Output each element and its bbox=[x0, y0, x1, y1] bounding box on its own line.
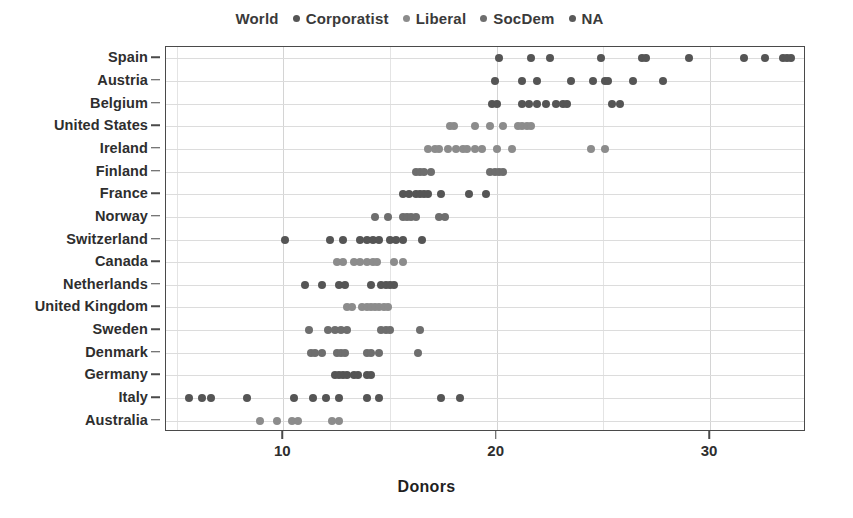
data-point[interactable] bbox=[533, 77, 541, 85]
data-point[interactable] bbox=[629, 77, 637, 85]
data-point[interactable] bbox=[390, 281, 398, 289]
data-point[interactable] bbox=[616, 100, 624, 108]
data-point[interactable] bbox=[375, 349, 383, 357]
data-point[interactable] bbox=[341, 349, 349, 357]
data-point[interactable] bbox=[533, 100, 541, 108]
data-point[interactable] bbox=[294, 417, 302, 425]
data-point[interactable] bbox=[384, 303, 392, 311]
data-point[interactable] bbox=[450, 122, 458, 130]
data-point[interactable] bbox=[414, 349, 422, 357]
data-point[interactable] bbox=[318, 349, 326, 357]
data-point[interactable] bbox=[341, 281, 349, 289]
data-point[interactable] bbox=[437, 190, 445, 198]
data-point[interactable] bbox=[281, 236, 289, 244]
y-axis-tick bbox=[151, 79, 160, 81]
y-axis-tick bbox=[151, 351, 160, 353]
x-axis-label-30: 30 bbox=[701, 442, 718, 459]
data-point[interactable] bbox=[416, 326, 424, 334]
data-point[interactable] bbox=[301, 281, 309, 289]
data-point[interactable] bbox=[418, 236, 426, 244]
data-point[interactable] bbox=[441, 213, 449, 221]
data-point[interactable] bbox=[740, 54, 748, 62]
data-point[interactable] bbox=[587, 145, 595, 153]
data-point[interactable] bbox=[198, 394, 206, 402]
data-point[interactable] bbox=[290, 394, 298, 402]
legend-item-liberal[interactable]: Liberal bbox=[403, 10, 481, 27]
data-point[interactable] bbox=[399, 236, 407, 244]
data-point[interactable] bbox=[444, 145, 452, 153]
data-point[interactable] bbox=[465, 190, 473, 198]
data-point[interactable] bbox=[305, 326, 313, 334]
data-point[interactable] bbox=[322, 394, 330, 402]
data-point[interactable] bbox=[527, 122, 535, 130]
data-point[interactable] bbox=[367, 371, 375, 379]
y-axis-label-norway: Norway bbox=[95, 208, 148, 224]
data-point[interactable] bbox=[493, 145, 501, 153]
data-point[interactable] bbox=[597, 54, 605, 62]
legend-item-na[interactable]: NA bbox=[569, 10, 618, 27]
data-point[interactable] bbox=[335, 417, 343, 425]
data-point[interactable] bbox=[185, 394, 193, 402]
data-point[interactable] bbox=[482, 190, 490, 198]
data-point[interactable] bbox=[375, 236, 383, 244]
data-point[interactable] bbox=[412, 213, 420, 221]
data-point[interactable] bbox=[273, 417, 281, 425]
data-point[interactable] bbox=[567, 77, 575, 85]
data-point[interactable] bbox=[525, 100, 533, 108]
data-point[interactable] bbox=[384, 213, 392, 221]
data-point[interactable] bbox=[309, 394, 317, 402]
data-point[interactable] bbox=[493, 100, 501, 108]
data-point[interactable] bbox=[373, 258, 381, 266]
data-point[interactable] bbox=[589, 77, 597, 85]
data-point[interactable] bbox=[424, 190, 432, 198]
data-point[interactable] bbox=[335, 394, 343, 402]
data-point[interactable] bbox=[787, 54, 795, 62]
data-point[interactable] bbox=[761, 54, 769, 62]
data-point[interactable] bbox=[399, 258, 407, 266]
data-point[interactable] bbox=[659, 77, 667, 85]
data-point[interactable] bbox=[685, 54, 693, 62]
data-point[interactable] bbox=[471, 122, 479, 130]
data-point[interactable] bbox=[339, 258, 347, 266]
data-point[interactable] bbox=[542, 100, 550, 108]
data-point[interactable] bbox=[546, 54, 554, 62]
data-point[interactable] bbox=[390, 258, 398, 266]
data-point[interactable] bbox=[499, 122, 507, 130]
data-point[interactable] bbox=[318, 281, 326, 289]
data-point[interactable] bbox=[642, 54, 650, 62]
data-point[interactable] bbox=[604, 77, 612, 85]
data-point[interactable] bbox=[486, 122, 494, 130]
data-point[interactable] bbox=[339, 236, 347, 244]
data-point[interactable] bbox=[243, 394, 251, 402]
data-point[interactable] bbox=[343, 326, 351, 334]
data-point[interactable] bbox=[563, 100, 571, 108]
data-point[interactable] bbox=[326, 236, 334, 244]
data-point[interactable] bbox=[495, 54, 503, 62]
data-point[interactable] bbox=[508, 145, 516, 153]
data-point[interactable] bbox=[367, 349, 375, 357]
data-point[interactable] bbox=[518, 77, 526, 85]
data-point[interactable] bbox=[456, 394, 464, 402]
data-point[interactable] bbox=[371, 213, 379, 221]
data-point[interactable] bbox=[375, 394, 383, 402]
legend-item-socdem[interactable]: SocDem bbox=[480, 10, 568, 27]
data-point[interactable] bbox=[437, 394, 445, 402]
data-point[interactable] bbox=[367, 281, 375, 289]
data-point[interactable] bbox=[363, 394, 371, 402]
data-point[interactable] bbox=[608, 100, 616, 108]
data-point[interactable] bbox=[478, 145, 486, 153]
data-point[interactable] bbox=[435, 145, 443, 153]
data-point[interactable] bbox=[601, 145, 609, 153]
data-point[interactable] bbox=[463, 145, 471, 153]
data-point[interactable] bbox=[354, 371, 362, 379]
data-point[interactable] bbox=[207, 394, 215, 402]
data-point[interactable] bbox=[527, 54, 535, 62]
data-point[interactable] bbox=[491, 77, 499, 85]
data-point[interactable] bbox=[256, 417, 264, 425]
data-point[interactable] bbox=[427, 168, 435, 176]
legend-item-corporatist[interactable]: Corporatist bbox=[293, 10, 403, 27]
data-point[interactable] bbox=[386, 326, 394, 334]
data-point[interactable] bbox=[348, 303, 356, 311]
y-gridline bbox=[166, 217, 804, 218]
data-point[interactable] bbox=[499, 168, 507, 176]
